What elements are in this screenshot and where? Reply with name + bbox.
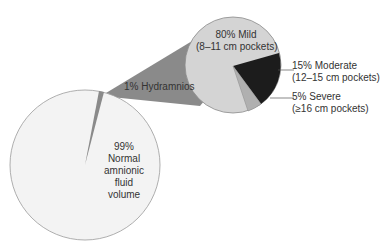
label-hydramnios: 1% Hydramnios — [124, 81, 195, 93]
label-moderate-line1: 15% Moderate — [292, 60, 380, 72]
label-normal-line3: fluid — [104, 177, 144, 189]
label-severe-line1: 5% Severe — [292, 91, 369, 103]
label-normal-line4: volume — [104, 189, 144, 201]
label-normal-pct: 99% — [104, 141, 144, 153]
label-mild-line1: 80% Mild — [196, 29, 276, 41]
label-severe-line2: (≥16 cm pockets) — [292, 103, 369, 115]
label-mild: 80% Mild (8–11 cm pockets) — [196, 29, 276, 53]
label-moderate: 15% Moderate (12–15 cm pockets) — [292, 60, 380, 84]
label-normal: 99% Normal amnionic fluid volume — [104, 141, 144, 201]
label-mild-line2: (8–11 cm pockets) — [196, 41, 276, 53]
label-normal-line1: Normal — [104, 153, 144, 165]
label-normal-line2: amnionic — [104, 165, 144, 177]
label-severe: 5% Severe (≥16 cm pockets) — [292, 91, 369, 115]
label-moderate-line2: (12–15 cm pockets) — [292, 72, 380, 84]
